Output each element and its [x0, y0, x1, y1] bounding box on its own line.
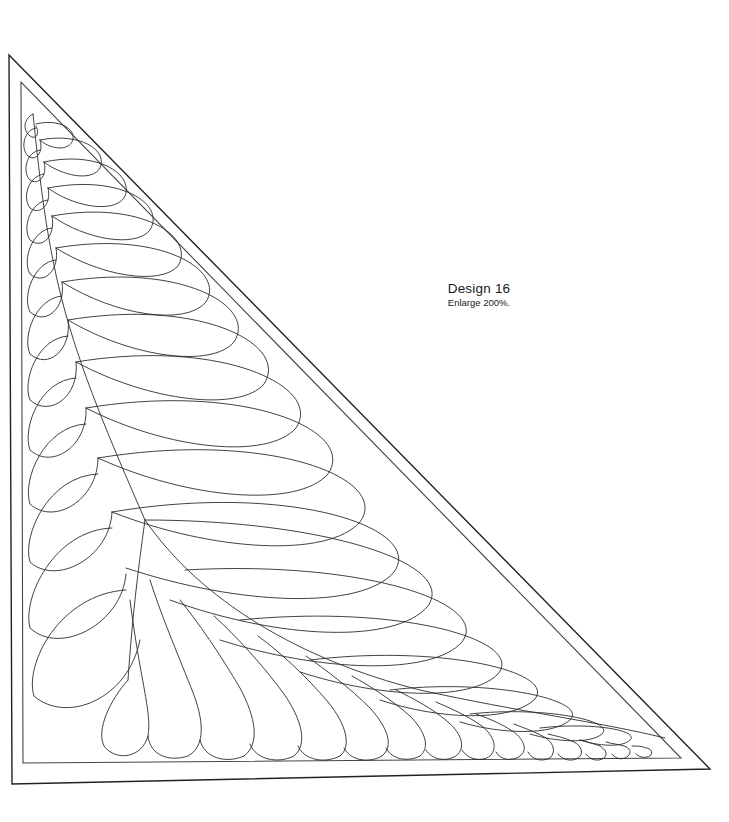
- feather-spine-lower: [145, 520, 665, 738]
- design-caption: Design 16 Enlarge 200%.: [404, 281, 554, 309]
- outer-border-triangle: [9, 55, 710, 784]
- quilting-feather-triangle-diagram: [0, 0, 729, 822]
- left-plumes: [24, 114, 140, 708]
- feather-spine-branch: [128, 520, 145, 680]
- bottom-plumes: [102, 580, 652, 760]
- design-instruction: Enlarge 200%.: [404, 297, 554, 309]
- design-title: Design 16: [404, 281, 554, 297]
- feather-motif: [24, 114, 665, 760]
- inner-border-triangle: [21, 82, 681, 763]
- upper-plumes: [36, 122, 631, 745]
